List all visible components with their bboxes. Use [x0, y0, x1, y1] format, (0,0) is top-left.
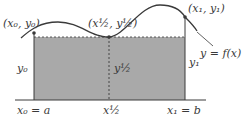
midpoint-rectangle — [34, 37, 185, 100]
point-right — [183, 15, 187, 19]
label-mid-point: (x½, y½) — [88, 17, 137, 30]
label-left-point: (x₀, y₀) — [3, 17, 40, 30]
label-function: y = f(x) — [199, 47, 241, 60]
label-right-point: (x₁, y₁) — [188, 2, 225, 15]
point-left — [32, 31, 36, 35]
midpoint-rule-diagram: (x₀, y₀) (x½, y½) (x₁, y₁) y = f(x) y₀ y… — [0, 0, 243, 119]
function-pointer — [197, 32, 213, 46]
point-mid — [107, 35, 111, 39]
label-left-height: y₀ — [16, 62, 28, 75]
label-right-x: x₁ = b — [167, 104, 201, 117]
label-mid-height: y½ — [113, 62, 131, 75]
label-left-x: x₀ = a — [17, 104, 50, 117]
label-mid-x: x½ — [103, 104, 120, 117]
label-right-height: y₁ — [188, 56, 200, 69]
